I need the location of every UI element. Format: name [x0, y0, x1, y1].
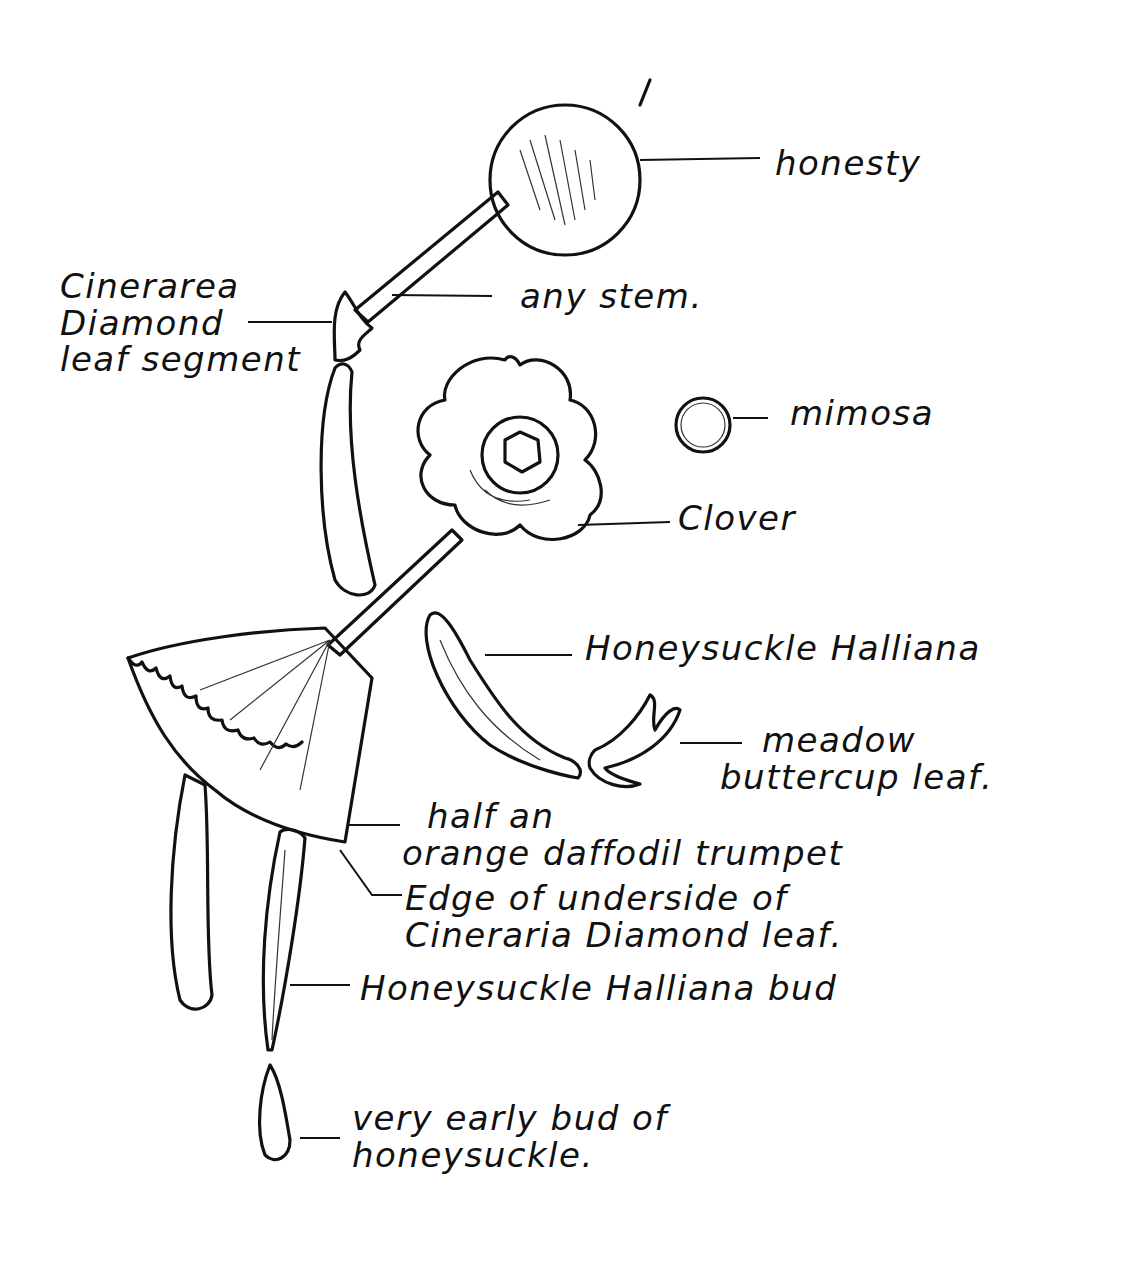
- left-hanging-bud: [171, 775, 212, 1009]
- label-clover: Clover: [678, 500, 796, 537]
- honeysuckle-bud: [263, 830, 305, 1050]
- label-line: half an: [402, 798, 843, 835]
- label-line: very early bud of: [352, 1100, 668, 1137]
- label-honeysuckle-halliana: Honeysuckle Halliana: [585, 630, 981, 667]
- honesty-disc: [490, 80, 650, 255]
- label-line: orange daffodil trumpet: [402, 835, 843, 872]
- any-stem: [355, 192, 508, 322]
- early-bud: [260, 1065, 290, 1160]
- label-daffodil-trumpet: half an orange daffodil trumpet: [402, 798, 843, 871]
- label-cineraria-underside: Edge of underside of Cineraria Diamond l…: [405, 880, 843, 953]
- label-early-bud: very early bud of honeysuckle.: [352, 1100, 668, 1173]
- label-cinerarea-leaf-segment: Cinerarea Diamond leaf segment: [60, 268, 301, 378]
- daffodil-trumpet: [128, 628, 372, 842]
- mimosa-ball: [676, 398, 730, 452]
- label-line: Edge of underside of: [405, 880, 843, 917]
- honeysuckle-halliana: [426, 613, 580, 778]
- label-line: buttercup leaf.: [720, 759, 993, 796]
- label-mimosa: mimosa: [790, 395, 934, 432]
- meadow-buttercup-leaf: [589, 695, 680, 786]
- label-honesty: honesty: [775, 145, 921, 182]
- label-line: Cineraria Diamond leaf.: [405, 917, 843, 954]
- label-any-stem: any stem.: [520, 278, 703, 315]
- label-line: Diamond: [60, 305, 301, 342]
- label-meadow-buttercup-leaf: meadow buttercup leaf.: [720, 722, 993, 795]
- label-line: meadow: [720, 722, 993, 759]
- clover-flower: [418, 357, 601, 540]
- label-honeysuckle-bud: Honeysuckle Halliana bud: [360, 970, 837, 1007]
- label-line: leaf segment: [60, 341, 301, 378]
- left-long-leaf: [321, 364, 375, 595]
- label-line: honeysuckle.: [352, 1137, 668, 1174]
- label-line: Cinerarea: [60, 268, 301, 305]
